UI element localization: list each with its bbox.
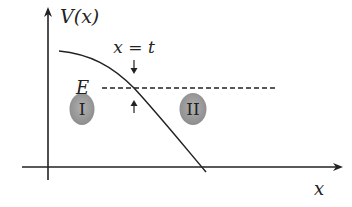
down-arrow-icon bbox=[131, 60, 138, 74]
turning-point-label: x = t bbox=[113, 37, 155, 57]
up-arrow-icon bbox=[131, 100, 138, 113]
potential-diagram: V(x) x E x = t I II bbox=[0, 0, 352, 207]
region-label-ii: II bbox=[186, 99, 199, 119]
x-axis-label: x bbox=[314, 178, 324, 199]
energy-label: E bbox=[75, 77, 89, 98]
region-label-i: I bbox=[79, 99, 86, 119]
y-axis-label: V(x) bbox=[60, 5, 99, 27]
